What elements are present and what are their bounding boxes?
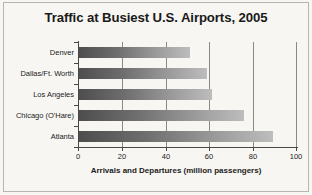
y-axis-tick <box>74 126 79 127</box>
x-axis-tick-label-80: 80 <box>241 152 265 161</box>
bar-row <box>78 63 297 84</box>
x-axis-tick-label-20: 20 <box>110 152 134 161</box>
x-axis-tick <box>78 147 79 151</box>
x-axis-tick-label-60: 60 <box>197 152 221 161</box>
x-axis-tick-label-40: 40 <box>154 152 178 161</box>
y-axis-tick <box>74 63 79 64</box>
bar-chicago-ohare <box>78 110 244 121</box>
y-axis-label-los-angeles: Los Angeles <box>0 90 74 99</box>
x-axis-tick <box>209 147 210 151</box>
bar-row <box>78 42 297 63</box>
x-axis-tick <box>166 147 167 151</box>
y-axis-line <box>78 41 79 148</box>
bar-denver <box>78 47 190 58</box>
x-axis-tick <box>122 147 123 151</box>
bar-dallas-ft-worth <box>78 68 207 79</box>
y-axis-label-denver: Denver <box>0 48 74 57</box>
y-axis-tick <box>74 105 79 106</box>
x-axis-line <box>78 147 298 148</box>
bar-los-angeles <box>78 89 212 100</box>
y-axis-label-dallas: Dallas/Ft. Worth <box>0 69 74 78</box>
bar-row <box>78 105 297 126</box>
chart-title: Traffic at Busiest U.S. Airports, 2005 <box>0 10 312 25</box>
y-axis-tick <box>74 42 79 43</box>
x-axis-tick-label-0: 0 <box>66 152 90 161</box>
bar-atlanta <box>78 131 273 142</box>
x-axis-tick-label-100: 100 <box>284 152 308 161</box>
y-axis-label-atlanta: Atlanta <box>0 132 74 141</box>
y-axis-label-chicago: Chicago (O'Hare) <box>0 111 74 120</box>
bar-chart-figure: Traffic at Busiest U.S. Airports, 2005 <box>0 0 312 195</box>
x-axis-title: Arrivals and Departures (million passeng… <box>0 166 312 175</box>
bar-row <box>78 84 297 105</box>
x-axis-tick <box>253 147 254 151</box>
bar-row <box>78 126 297 147</box>
y-axis-tick <box>74 84 79 85</box>
plot-area <box>78 42 297 147</box>
x-axis-tick <box>296 147 297 151</box>
